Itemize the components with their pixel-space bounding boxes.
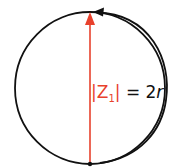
circle-diagram: |Z1| = 2r	[0, 0, 176, 168]
label-rhs: = 2	[120, 82, 156, 102]
label-var: r	[156, 82, 164, 102]
magnitude-label: |Z1| = 2r	[91, 82, 164, 104]
origin-point	[88, 162, 92, 166]
vector-arrowhead-icon	[85, 12, 95, 25]
label-lhs: |Z	[91, 82, 108, 102]
arc-arrowhead-icon	[93, 8, 104, 17]
